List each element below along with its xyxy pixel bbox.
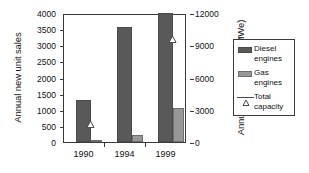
y-axis-right-tick-label: 9000 <box>195 41 214 51</box>
chart-figure: Annual new unit sales Annual new capacit… <box>0 0 309 173</box>
bar-gas-engines <box>173 108 184 142</box>
legend-label: Dieselengines <box>254 44 282 63</box>
y-axis-left-tick-label: 500 <box>42 122 56 132</box>
legend-label: Totalcapacity <box>254 92 283 111</box>
legend-item[interactable]: Gasengines <box>237 68 292 87</box>
y-axis-left-tick-label: 0 <box>51 138 56 148</box>
y-axis-left-tick-label: 1500 <box>37 90 56 100</box>
legend-item[interactable]: Totalcapacity <box>237 92 292 111</box>
legend-triangle-marker-icon <box>237 93 254 102</box>
x-axis-tick-mark <box>104 143 105 147</box>
bar-gas-engines <box>132 135 143 142</box>
legend-item[interactable]: Dieselengines <box>237 44 292 63</box>
y-axis-right-ticks: 030006000900012000 <box>190 14 224 143</box>
x-axis-labels: 199019941999 <box>63 149 186 163</box>
y-axis-right-tick-mark <box>190 111 194 112</box>
x-axis-tick-mark <box>145 143 146 147</box>
bar-diesel-engines <box>117 27 132 142</box>
y-axis-right-tick-mark <box>190 14 194 15</box>
y-axis-left-tick-label: 3000 <box>37 41 56 51</box>
y-axis-left-tick-label: 2500 <box>37 57 56 67</box>
y-axis-left-ticks: 05001000150020002500300035004000 <box>26 14 60 143</box>
y-axis-left-tick-label: 3500 <box>37 25 56 35</box>
bar-gas-engines <box>91 140 102 142</box>
bar-diesel-engines <box>158 13 173 142</box>
y-axis-left-tick-label: 2000 <box>37 74 56 84</box>
y-axis-right-tick-mark <box>190 46 194 47</box>
plot-area <box>63 14 186 143</box>
y-axis-right-tick-label: 12000 <box>195 9 219 19</box>
legend-swatch-diesel-icon <box>237 45 254 54</box>
y-axis-left-tick-label: 1000 <box>37 106 56 116</box>
y-axis-right-tick-mark <box>190 79 194 80</box>
y-axis-right-tick-mark <box>190 143 194 144</box>
x-axis-tick-label: 1990 <box>64 149 104 159</box>
x-axis-tick-label: 1999 <box>146 149 186 159</box>
y-axis-right-tick-label: 6000 <box>195 74 214 84</box>
legend-swatch-gas-icon <box>237 69 254 78</box>
legend-label: Gasengines <box>254 68 282 87</box>
y-axis-right-tick-label: 3000 <box>195 106 214 116</box>
chart-legend: DieselenginesGasenginesTotalcapacity <box>233 39 295 116</box>
x-axis-tick-label: 1994 <box>105 149 145 159</box>
y-axis-left-tick-label: 4000 <box>37 9 56 19</box>
y-axis-right-tick-label: 0 <box>195 138 200 148</box>
y-axis-left-title: Annual new unit sales <box>12 13 23 143</box>
